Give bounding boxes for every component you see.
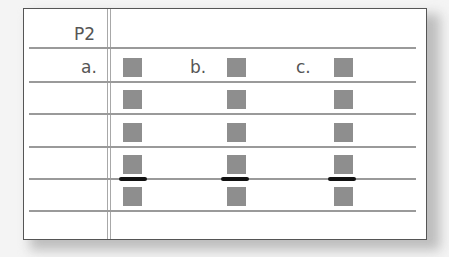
divider-line xyxy=(110,9,111,239)
column-label-c: c. xyxy=(296,57,311,77)
square xyxy=(123,187,142,206)
row-line xyxy=(29,81,416,83)
diagram-card: P2 a. b. c. xyxy=(23,8,427,240)
page-title: P2 xyxy=(74,24,95,44)
square xyxy=(334,155,353,174)
square xyxy=(227,123,246,142)
square xyxy=(123,155,142,174)
square xyxy=(123,58,142,77)
square xyxy=(227,90,246,109)
square xyxy=(123,90,142,109)
square xyxy=(227,155,246,174)
square xyxy=(123,123,142,142)
marker-bar xyxy=(221,177,249,181)
divider-line xyxy=(107,9,108,239)
row-line xyxy=(29,113,416,115)
marker-bar xyxy=(328,177,356,181)
row-line xyxy=(29,210,416,212)
row-line xyxy=(29,47,416,49)
column-label-a: a. xyxy=(81,57,97,77)
square xyxy=(334,90,353,109)
square xyxy=(334,187,353,206)
row-line xyxy=(29,146,416,148)
square xyxy=(334,58,353,77)
square xyxy=(227,187,246,206)
square xyxy=(227,58,246,77)
square xyxy=(334,123,353,142)
column-label-b: b. xyxy=(190,57,206,77)
marker-bar xyxy=(119,177,147,181)
